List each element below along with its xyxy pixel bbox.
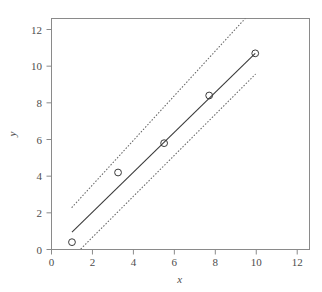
- y-tick-label-6: 6: [37, 134, 43, 146]
- x-tick-label-12: 12: [292, 256, 303, 268]
- y-tick-label-8: 8: [37, 97, 43, 109]
- y-axis-title: y: [6, 131, 18, 137]
- plot-canvas: 0 2 4 6 8 10 12 0 2 4 6 8 10 12: [0, 0, 322, 292]
- y-tick-label-4: 4: [37, 170, 43, 182]
- x-tick-label-10: 10: [251, 256, 263, 268]
- y-tick-label-10: 10: [31, 60, 43, 72]
- x-tick-label-0: 0: [49, 256, 55, 268]
- scatter-plot-figure: 0 2 4 6 8 10 12 0 2 4 6 8 10 12: [0, 0, 322, 292]
- y-tick-label-2: 2: [37, 207, 43, 219]
- x-tick-label-4: 4: [131, 256, 137, 268]
- x-tick-label-2: 2: [90, 256, 96, 268]
- x-tick-label-8: 8: [213, 256, 219, 268]
- y-tick-label-0: 0: [37, 244, 43, 256]
- x-tick-label-6: 6: [172, 256, 178, 268]
- y-tick-label-12: 12: [31, 24, 42, 36]
- x-axis-title: x: [176, 273, 182, 285]
